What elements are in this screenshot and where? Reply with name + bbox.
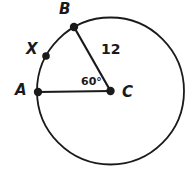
point-label-A: A [15, 83, 27, 98]
point-dot-B [70, 23, 78, 31]
radius-length-label: 12 [101, 42, 120, 56]
point-label-X: X [26, 42, 38, 57]
segment-radius-CA [38, 91, 111, 92]
central-angle-label: 60° [81, 76, 102, 87]
figure-canvas [0, 0, 195, 182]
point-dot-X [42, 52, 50, 60]
point-dot-C [106, 87, 114, 95]
point-dot-A [34, 88, 42, 96]
point-label-B: B [59, 2, 70, 17]
point-label-C: C [122, 85, 133, 100]
geometry-figure: B X A C 12 60° [0, 0, 195, 182]
